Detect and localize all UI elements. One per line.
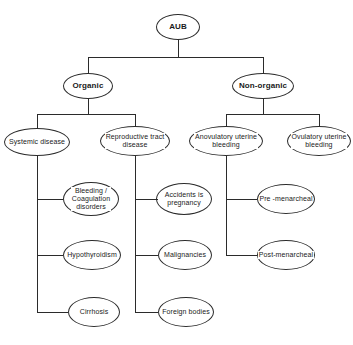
node-ovulatory-uterine-bleeding: Ovulatory uterine bleeding	[287, 126, 351, 156]
node-label: Post-menarcheal	[258, 251, 313, 259]
node-anovulatory-uterine-bleeding: Anovulatory uterine bleeding	[189, 126, 263, 156]
node-label: Reproductive tract disease	[105, 133, 165, 149]
diagram-canvas: AUBOrganicNon-organicSystemic diseaseRep…	[0, 0, 353, 345]
node-accidents-is-pregnancy: Accidents is pregnancy	[156, 183, 212, 215]
edge-aub-split	[88, 40, 263, 73]
node-label: Bleeding / Coagulation disorders	[71, 187, 110, 210]
edge-nonorganic-split	[226, 99, 319, 126]
node-label: Pre -menarcheal	[259, 195, 313, 203]
edge-reproductive-trunk	[135, 156, 158, 312]
node-label: Ovulatory uterine bleeding	[291, 133, 347, 149]
connector-lines-layer	[0, 0, 353, 345]
node-non-organic: Non-organic	[232, 73, 294, 99]
node-hypothyroidism: Hypothyroidism	[63, 240, 121, 270]
node-label: Hypothyroidism	[67, 251, 118, 259]
node-label: AUB	[169, 23, 188, 32]
node-label: Anovulatory uterine bleeding	[194, 133, 257, 149]
node-label: Organic	[72, 82, 104, 91]
node-pre-menarcheal: Pre -menarcheal	[257, 184, 315, 214]
node-label: Non-organic	[238, 82, 287, 91]
node-bleeding-coagulation-disorders: Bleeding / Coagulation disorders	[63, 182, 119, 216]
node-label: Cirrhosis	[79, 308, 109, 316]
edge-organic-split	[37, 99, 135, 128]
node-reproductive-tract-disease: Reproductive tract disease	[100, 126, 170, 156]
node-organic: Organic	[63, 73, 113, 99]
node-malignancies: Malignancies	[158, 240, 212, 270]
node-label: Systemic disease	[8, 138, 65, 146]
edge-systemic-trunk	[37, 156, 68, 312]
node-label: Malignancies	[163, 251, 206, 259]
node-label: Foreign bodies	[162, 308, 211, 316]
node-systemic-disease: Systemic disease	[4, 128, 70, 156]
node-cirrhosis: Cirrhosis	[68, 297, 120, 327]
node-aub: AUB	[156, 14, 200, 40]
node-label: Accidents is pregnancy	[164, 191, 204, 207]
node-foreign-bodies: Foreign bodies	[158, 297, 214, 327]
edge-anovulatory-trunk	[226, 156, 257, 255]
node-post-menarcheal: Post-menarcheal	[257, 240, 315, 270]
